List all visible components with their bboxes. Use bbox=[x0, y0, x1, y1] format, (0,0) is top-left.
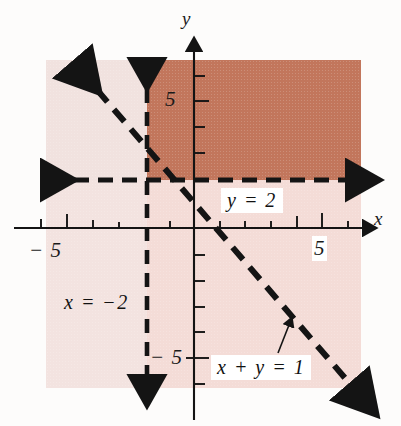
y-axis-label: y bbox=[182, 8, 190, 30]
x-axis-label: x bbox=[374, 208, 382, 230]
x-tick-label-negative-5: − 5 bbox=[29, 238, 62, 263]
y-axis bbox=[186, 48, 209, 420]
x-tick-label-5: 5 bbox=[312, 236, 327, 261]
equation-label-y-equals-2: y = 2 bbox=[221, 188, 283, 213]
y-tick-label-negative-5: − 5 bbox=[150, 345, 183, 370]
label-leader-arrow bbox=[278, 325, 289, 353]
x-axis bbox=[14, 213, 366, 228]
equation-label-x-equals-minus-2: x = −2 bbox=[58, 290, 135, 315]
y-tick-label-5: 5 bbox=[165, 87, 176, 112]
y-axis-ticks bbox=[186, 76, 209, 384]
graph-figure: y x − 5 5 5 − 5 y = 2 x = −2 x + y = 1 bbox=[0, 0, 401, 426]
equation-label-x-plus-y-equals-1: x + y = 1 bbox=[211, 355, 311, 380]
graph-drawing-layer bbox=[0, 0, 401, 426]
boundary-line-x-plus-y-equals-1 bbox=[80, 70, 357, 392]
